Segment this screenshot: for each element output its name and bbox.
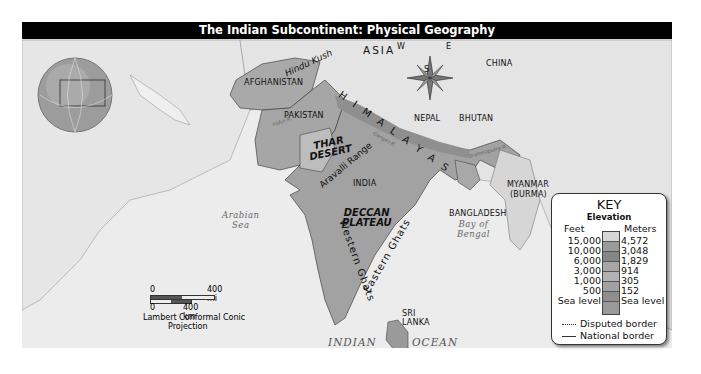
- key-subtitle: Elevation: [552, 212, 666, 222]
- key-meters-header: Meters: [624, 224, 656, 234]
- elevation-key: KEY Elevation Feet Meters 15,000 4,572 1…: [551, 193, 667, 345]
- country-label-sri-lanka-2: LANKA: [402, 318, 430, 327]
- key-meters: Sea level: [621, 296, 664, 306]
- compass-e-label: E: [446, 42, 451, 51]
- legend-disputed-border: Disputed border: [562, 318, 657, 329]
- scale-mi-value: 400 mi: [207, 285, 222, 303]
- water-label-indian: INDIAN: [328, 336, 377, 348]
- swatch-500: [603, 282, 619, 292]
- key-title: KEY: [552, 197, 666, 212]
- country-label-bhutan: BHUTAN: [459, 114, 493, 123]
- country-label-afghanistan: AFGHANISTAN: [244, 78, 303, 87]
- country-label-myanmar: MYANMAR: [507, 180, 549, 189]
- compass-w-label: W: [397, 42, 405, 51]
- water-label-ocean: OCEAN: [412, 336, 458, 348]
- swatch-1000: [603, 272, 619, 282]
- projection-label-2: Projection: [168, 322, 208, 331]
- swatch-sea-level: [603, 292, 619, 302]
- compass-rose-icon: [405, 54, 455, 102]
- swatch-15000: [603, 232, 619, 242]
- swatch-6000: [603, 252, 619, 262]
- map-title: The Indian Subcontinent: Physical Geogra…: [22, 22, 672, 39]
- water-label-bay-of-bengal: Bay ofBengal: [457, 219, 490, 239]
- compass-s-label: S: [424, 65, 429, 74]
- swatch-3000: [603, 262, 619, 272]
- water-label-arabian-sea: ArabianSea: [222, 210, 259, 230]
- swatch-10000: [603, 242, 619, 252]
- key-feet: Sea level: [548, 296, 601, 306]
- country-label-nepal: NEPAL: [414, 114, 440, 123]
- elevation-swatches: [602, 231, 620, 315]
- solid-line-icon: [562, 336, 576, 337]
- key-feet-header: Feet: [564, 224, 584, 234]
- country-label-india: INDIA: [353, 179, 376, 188]
- legend-national-border: National border: [562, 330, 654, 341]
- dotted-line-icon: [562, 324, 576, 325]
- swatch-below: [603, 302, 619, 314]
- scale-mi-zero: 0: [150, 285, 155, 294]
- country-label-bangladesh: BANGLADESH: [449, 209, 507, 218]
- projection-label: Lambert Conformal Conic: [143, 313, 245, 322]
- continent-label-asia: ASIA: [363, 44, 395, 56]
- country-label-myanmar-alt: (BURMA): [510, 190, 547, 199]
- country-label-china: CHINA: [486, 59, 512, 68]
- scale-km-zero: 0: [150, 303, 155, 312]
- country-label-sri-lanka: SRI: [402, 309, 416, 318]
